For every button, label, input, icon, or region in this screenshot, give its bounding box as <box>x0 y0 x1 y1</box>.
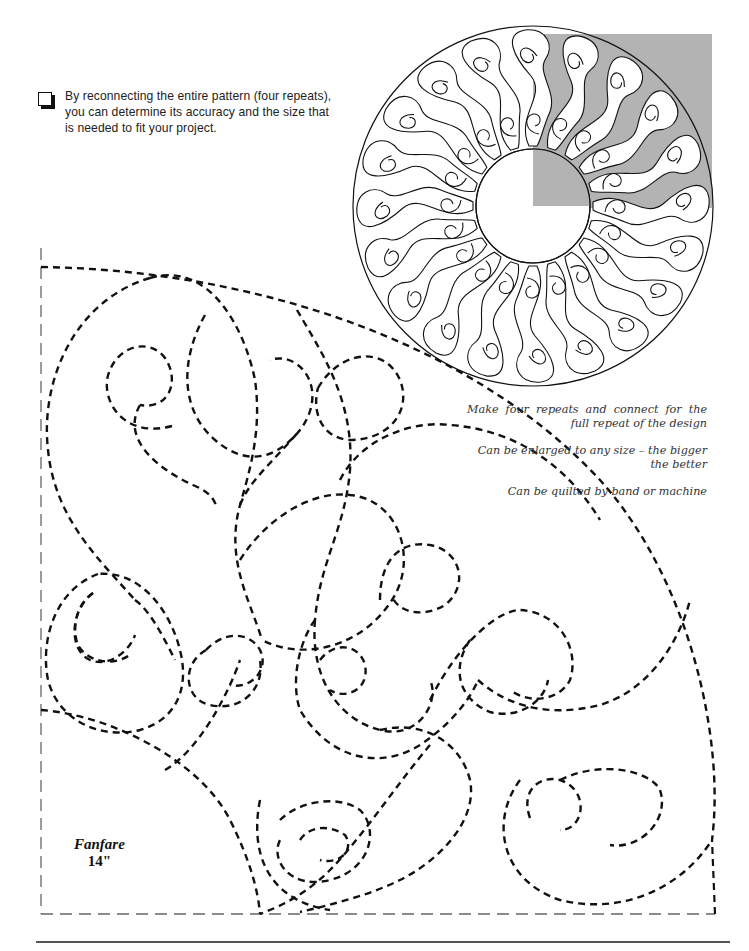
boundary-right <box>712 840 715 914</box>
note-enlarge: Can be enlarged to any size – the bigger… <box>467 444 707 472</box>
tip-text: By reconnecting the entire pattern (four… <box>65 88 335 136</box>
note-repeats: Make four repeats and connect for the fu… <box>467 403 707 431</box>
outer-arc <box>41 267 715 840</box>
pattern-size: 14" <box>74 853 125 870</box>
quilting-pattern-quarter <box>41 248 715 914</box>
page-divider <box>36 941 730 943</box>
circle-preview-diagram <box>353 26 713 386</box>
tip-block: By reconnecting the entire pattern (four… <box>38 88 358 136</box>
pattern-notes: Make four repeats and connect for the fu… <box>467 403 707 512</box>
checkbox-icon[interactable] <box>38 92 52 106</box>
pattern-name: Fanfare <box>74 836 125 853</box>
inner-arc <box>41 710 260 914</box>
pattern-label: Fanfare 14" <box>74 836 125 870</box>
note-quilting: Can be quilted by band or machine <box>467 485 707 499</box>
